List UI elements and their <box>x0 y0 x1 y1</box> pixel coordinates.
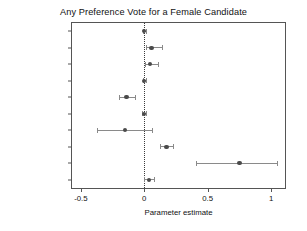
y-axis-tick <box>68 179 72 180</box>
y-axis-tick <box>68 64 72 65</box>
y-axis-tick <box>68 113 72 114</box>
point-estimate-marker <box>164 145 168 149</box>
point-estimate-marker <box>142 112 146 116</box>
ci-cap-upper <box>146 111 147 116</box>
chart-title: Any Preference Vote for a Female Candida… <box>0 7 307 17</box>
ci-cap-lower <box>196 161 197 166</box>
y-axis-tick <box>68 31 72 32</box>
ci-cap-lower <box>145 62 146 67</box>
ci-cap-lower <box>119 95 120 100</box>
ci-cap-upper <box>154 177 155 182</box>
x-axis-tick <box>208 188 209 192</box>
ci-cap-lower <box>146 45 147 50</box>
ci-cap-upper <box>135 95 136 100</box>
point-estimate-marker <box>148 62 152 66</box>
point-estimate-marker <box>147 178 151 182</box>
point-estimate-marker <box>123 128 127 132</box>
y-axis-tick <box>68 47 72 48</box>
x-axis-tick-label: 0 <box>142 194 146 203</box>
y-axis-tick <box>68 97 72 98</box>
x-axis-tick <box>81 188 82 192</box>
plot-area: -0.500.51 AgeClassEducationIdeologyParty… <box>71 22 286 189</box>
ci-cap-upper <box>173 144 174 149</box>
x-axis-tick <box>271 188 272 192</box>
x-axis-tick-label: 0.5 <box>202 194 213 203</box>
ci-cap-upper <box>152 128 153 133</box>
ci-cap-upper <box>158 62 159 67</box>
y-axis-tick <box>68 163 72 164</box>
y-axis-tick <box>68 146 72 147</box>
point-estimate-marker <box>237 161 241 165</box>
coefficient-plot-figure: Any Preference Vote for a Female Candida… <box>0 0 307 231</box>
point-estimate-marker <box>124 95 128 99</box>
x-axis-tick <box>144 188 145 192</box>
point-estimate-marker <box>149 46 153 50</box>
ci-cap-lower <box>160 144 161 149</box>
y-axis-tick <box>68 130 72 131</box>
ci-cap-upper <box>162 45 163 50</box>
x-axis-tick-label: -0.5 <box>74 194 87 203</box>
x-axis-tick-label: 1 <box>269 194 273 203</box>
x-axis-title: Parameter estimate <box>71 208 286 217</box>
ci-cap-lower <box>97 128 98 133</box>
ci-cap-lower <box>144 177 145 182</box>
ci-cap-upper <box>277 161 278 166</box>
y-axis-tick <box>68 80 72 81</box>
